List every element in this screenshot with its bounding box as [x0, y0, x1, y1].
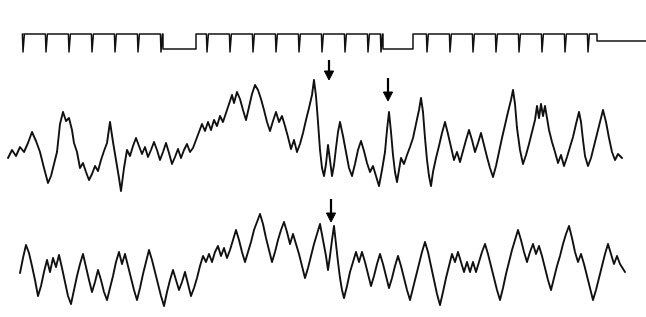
traces-canvas — [0, 0, 646, 317]
figure-container — [0, 0, 646, 317]
